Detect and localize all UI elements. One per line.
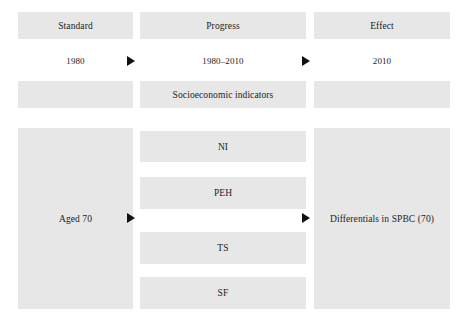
indicator-box-sf: SF [140,277,306,309]
header-box-effect: Effect [314,12,450,39]
panel-box-differentials-spbc: Differentials in SPBC (70) [314,128,450,309]
period-label-standard: 1980 [18,50,133,72]
panel-box-aged-70: Aged 70 [18,128,133,309]
header-label-effect: Effect [366,20,398,32]
arrow-right-icon-bottom-right [302,213,310,223]
indicator-box-peh: PEH [140,177,306,209]
arrow-right-icon-top-right [302,56,310,66]
group-label-socioeconomic-indicators: Socioeconomic indicators [169,89,278,101]
spacer-box-right-upper [314,81,450,108]
arrow-right-icon-top-left [127,56,135,66]
panel-label-aged-70: Aged 70 [55,213,96,225]
header-box-standard: Standard [18,12,133,39]
arrow-right-icon-bottom-left [127,213,135,223]
indicator-label-ni: NI [214,141,232,153]
indicator-label-peh: PEH [210,187,236,199]
spacer-box-left-upper [18,81,133,108]
group-box-socioeconomic-indicators: Socioeconomic indicators [140,81,306,108]
period-label-progress: 1980–2010 [140,50,306,72]
header-box-progress: Progress [140,12,306,39]
panel-label-differentials-spbc: Differentials in SPBC (70) [326,213,438,225]
period-label-effect: 2010 [314,50,450,72]
header-label-progress: Progress [202,20,244,32]
indicator-label-sf: SF [214,287,233,299]
flow-diagram: Standard Progress Effect 1980 1980–2010 … [0,0,467,330]
indicator-box-ni: NI [140,131,306,162]
header-label-standard: Standard [54,20,97,32]
indicator-label-ts: TS [213,242,232,254]
indicator-box-ts: TS [140,232,306,264]
